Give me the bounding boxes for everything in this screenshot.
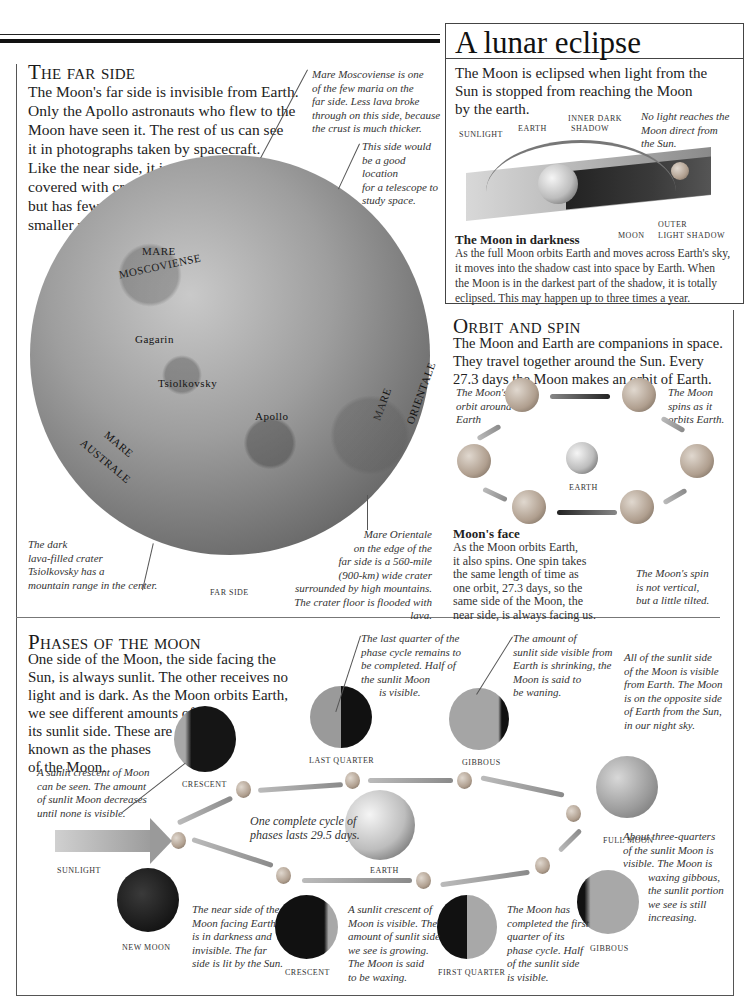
orbit-arrow [557,510,617,515]
caption-line: the sunlit portion [623,884,724,898]
caption-line: About three-quarters [623,830,724,844]
caption-first-quarter: The Moon has completed the first quarter… [507,903,589,984]
far-side-image-label: FAR SIDE [210,588,249,597]
caption-line: The amount of [513,632,613,646]
caption-line: be completed. Half of [361,659,461,673]
eclipsed-moon-image [671,162,689,180]
caption-line: No light reaches the [641,110,741,124]
caption-line: The Moon has [507,903,589,917]
caption-line: to be waxing. [348,971,440,985]
caption-line: we see is still [623,898,724,912]
phase-orbit-arrow [558,828,583,853]
body-line: one orbit, 27.3 days, so the [453,582,603,596]
small-orbit-moon [566,805,581,822]
label-inner-dark: INNER DARK [568,114,622,123]
caption-line: One complete cycle of [250,814,360,828]
caption-no-light: No light reaches the Moon direct from th… [641,110,741,151]
caption-line: A sunlit crescent of Moon [37,766,149,780]
caption-line: The near side of the [192,903,283,917]
caption-spin-tilted: The Moon's spin is not vertical, but a l… [636,567,709,608]
map-label-mare-orientale: MARE [370,386,393,422]
caption-line: sunlit side visible from [513,646,613,660]
caption-waning-gibbous: The amount of sunlit side visible from E… [513,632,613,700]
label-shadow: SHADOW [571,124,609,133]
sunlight-arrow-head [150,818,172,864]
phase-orbit-arrow [368,778,453,783]
caption-orbit-around-earth: The Moon's orbit around Earth [456,386,512,427]
caption-line: can be seen. The amount [37,780,149,794]
lunar-eclipse-box: A lunar eclipse The Moon is eclipsed whe… [445,23,744,304]
new-moon-image [117,868,179,932]
left-margin-rule [16,64,17,996]
label-crescent: CRESCENT [182,780,227,789]
label-first-quarter: FIRST QUARTER [438,968,505,977]
caption-line: amount of sunlit side [348,930,440,944]
caption-line: quarter of its [507,930,589,944]
caption-line: is not vertical, [636,581,709,595]
label-crescent: CRESCENT [285,968,330,977]
orbit-moon-3 [680,444,714,478]
caption-line: is in darkness and [192,930,283,944]
caption-line: The Moon's [456,386,512,400]
caption-line: The dark [28,538,178,552]
small-orbit-moon [171,832,186,849]
caption-line: mountain range in the center. [28,579,178,593]
body-line: As the Moon orbits Earth, [453,541,603,555]
caption-line: All of the sunlit side [624,651,723,665]
caption-line: of Earth from the Sun, [624,705,723,719]
map-label-apollo: Apollo [255,410,289,422]
label-outer: OUTER [658,220,687,229]
caption-line: Mare Moscoviense is one [312,68,442,82]
label-new-moon: NEW MOON [122,943,171,952]
waxing-crescent-moon-image [275,895,338,959]
intro-line: Sun is stopped from reaching the Moon [455,82,740,100]
phase-orbit-arrow [302,878,412,883]
small-orbit-moon [535,857,550,874]
label-sunlight: SUNLIGHT [57,866,101,875]
map-label-australe: AUSTRALE [78,437,133,486]
far-side-title: The far side [28,62,135,83]
caption-line: the Sun. [641,137,741,151]
caption-line: for a telescope to [362,181,442,195]
caption-line: we see is growing. [348,944,440,958]
caption-line: surrounded by high mountains. [280,582,432,596]
caption-waxing-crescent: A sunlit crescent of Moon is visible. Th… [348,903,440,984]
caption-line: Earth [456,413,512,427]
intro-line: One side of the Moon, the side facing th… [28,650,318,668]
orbit-moon-2 [622,378,656,412]
map-label-tsiolkovsky: Tsiolkovsky [158,377,217,389]
intro-line: Moon have seen it. The rest of us can se… [28,120,328,139]
intro-line: Sun, is always sunlit. The other receive… [28,668,318,686]
caption-line: phase cycle. Half [507,944,589,958]
phase-orbit-arrow [440,870,530,887]
eclipse-diagram [466,142,711,217]
caption-line: far side. Less lava broke [312,95,442,109]
intro-line: Only the Apollo astronauts who flew to t… [28,101,328,120]
map-label-orientale: ORIENTALE [404,360,438,425]
right-margin-rule [733,310,734,996]
label-sunlight: SUNLIGHT [459,130,503,139]
caption-waxing-gibbous: About three-quarters of the sunlit Moon … [623,830,724,925]
intro-line: known as the phases [28,740,318,758]
leader-line [476,636,513,694]
caption-line: far side is a 560-mile [280,555,432,569]
intro-line: we see different amounts of [28,704,318,722]
caption-line: orbit around [456,400,512,414]
caption-line: the sunlit Moon [361,673,461,687]
leader-line [338,144,360,190]
caption-new-moon: The near side of the Moon facing Earth i… [192,903,283,971]
caption-line: be a good location [362,154,442,181]
caption-line: The Moon [668,386,724,400]
phase-orbit-arrow [258,782,343,793]
label-earth: EARTH [569,483,598,492]
caption-waning-crescent: A sunlit crescent of Moon can be seen. T… [37,766,149,820]
caption-line: waxing gibbous, [623,871,724,885]
orbit-arrow [662,488,687,505]
caption-line: This side would [362,140,442,154]
caption-line: completed the first [507,917,589,931]
orbit-moon-6 [457,444,491,478]
intro-line: The Moon is eclipsed when light from the [455,64,740,82]
body-line: the Moon is in the darkest part of the s… [455,276,743,291]
caption-line: of the sunlit side [507,957,589,971]
label-earth: EARTH [518,124,547,133]
